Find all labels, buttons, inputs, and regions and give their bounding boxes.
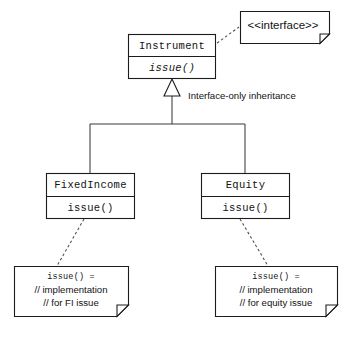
hollow-triangle-icon <box>164 79 180 96</box>
dashed-line-interface-note <box>213 27 239 46</box>
fixedincome-method-issue: issue() <box>67 202 113 214</box>
note-fixedincome-impl[interactable]: issue() = // implementation // for FI is… <box>15 267 129 317</box>
inheritance-label: Interface-only inheritance <box>188 90 296 101</box>
note-equity-impl[interactable]: issue() = // implementation // for equit… <box>216 267 338 317</box>
equity-note-line-2: // implementation <box>239 284 312 295</box>
fixedincome-class-name: FixedIncome <box>54 179 127 191</box>
equity-class-name: Equity <box>226 179 266 191</box>
instrument-class-name: Instrument <box>139 40 205 52</box>
equity-method-issue: issue() <box>222 202 268 214</box>
fi-note-line-3: // for FI issue <box>43 297 98 308</box>
interface-stereotype-text: <<interface>> <box>248 19 319 31</box>
interface-note-fold-icon <box>320 34 330 44</box>
class-box-instrument[interactable]: Instrument issue() <box>129 35 216 79</box>
equity-note-fold-icon <box>326 305 338 317</box>
instrument-method-issue: issue() <box>149 62 195 74</box>
equity-note-line-3: // for equity issue <box>240 297 313 308</box>
dashed-line-equity-note <box>240 219 268 266</box>
diagram-canvas: Instrument issue() <<interface>> Interfa… <box>0 0 347 343</box>
fi-note-line-1: issue() = <box>47 272 95 282</box>
equity-note-line-1: issue() = <box>252 272 300 282</box>
class-box-fixedincome[interactable]: FixedIncome issue() <box>47 174 135 219</box>
class-box-equity[interactable]: Equity issue() <box>202 174 290 219</box>
fi-note-line-2: // implementation <box>34 284 107 295</box>
dashed-line-fi-note <box>57 219 84 266</box>
note-interface[interactable]: <<interface>> <box>241 12 330 44</box>
uml-class-diagram: Instrument issue() <<interface>> Interfa… <box>0 0 347 343</box>
fi-note-fold-icon <box>117 305 129 317</box>
